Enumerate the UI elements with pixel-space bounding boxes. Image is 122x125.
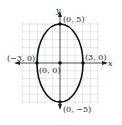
label-top: (0, 5): [63, 15, 85, 24]
ellipse-diagram: y x (0, 5) (0, −5) (−3, 0) (3, 0) (0, 0): [0, 0, 122, 125]
x-axis-label: x: [108, 59, 113, 68]
point-center: [58, 61, 62, 65]
point-bottom: [58, 100, 62, 104]
point-left: [35, 61, 39, 65]
label-center: (0, 0): [39, 66, 61, 75]
label-bottom: (0, −5): [63, 105, 91, 114]
y-axis-label: y: [55, 6, 61, 15]
y-axis-arrow-down-icon: [58, 104, 62, 110]
label-right: (3, 0): [85, 53, 107, 62]
point-top: [58, 22, 62, 26]
label-left: (−3, 0): [7, 54, 35, 63]
